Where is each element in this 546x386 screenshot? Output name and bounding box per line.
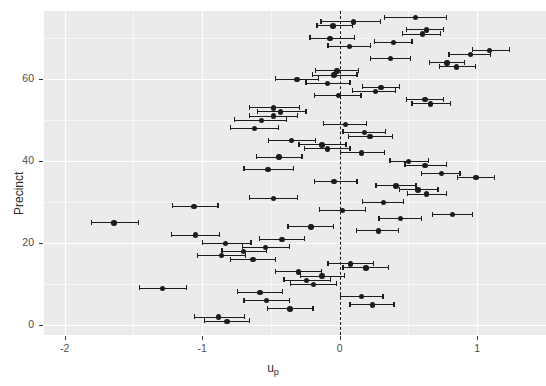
- data-point: [191, 204, 196, 209]
- y-tick-mark: [39, 243, 43, 244]
- error-bar-cap-high: [358, 68, 359, 73]
- data-point: [265, 167, 270, 172]
- data-point: [415, 187, 420, 192]
- data-point: [340, 208, 345, 213]
- data-point: [363, 265, 368, 270]
- data-point: [219, 253, 224, 258]
- error-bar-cap-low: [298, 142, 299, 147]
- data-point: [359, 150, 364, 155]
- error-bar-cap-high: [244, 314, 245, 319]
- data-point: [398, 216, 403, 221]
- error-bar-cap-low: [249, 105, 250, 110]
- y-tick-mark: [39, 79, 43, 80]
- error-bar-cap-high: [440, 31, 441, 36]
- error-bar-cap-low: [374, 39, 375, 44]
- x-axis-title-subscript: p: [274, 367, 279, 377]
- error-bar-cap-high: [446, 191, 447, 196]
- data-point: [454, 64, 459, 69]
- error-bar-cap-high: [373, 261, 374, 266]
- error-bar-cap-high: [446, 15, 447, 20]
- x-gridline-major: [65, 11, 66, 335]
- error-bar-cap-high: [411, 39, 412, 44]
- y-gridline-minor: [44, 202, 546, 203]
- error-bar-cap-high: [352, 23, 353, 28]
- error-bar-cap-low: [375, 183, 376, 188]
- error-bar-cap-high: [365, 207, 366, 212]
- error-bar-cap-low: [171, 232, 172, 237]
- error-bar-cap-high: [289, 298, 290, 303]
- data-point: [289, 138, 294, 143]
- error-bar-cap-high: [399, 84, 400, 89]
- data-point: [468, 52, 473, 57]
- error-bar-cap-high: [330, 277, 331, 282]
- error-bar-cap-high: [366, 121, 367, 126]
- error-bar-cap-low: [389, 158, 390, 163]
- error-bar-cap-high: [186, 285, 187, 290]
- error-bar-cap-low: [340, 294, 341, 299]
- error-bar-cap-high: [392, 134, 393, 139]
- y-tick-mark: [39, 325, 43, 326]
- data-point: [278, 109, 283, 114]
- error-bar-cap-low: [457, 175, 458, 180]
- data-point: [378, 85, 383, 90]
- error-bar-cap-low: [448, 52, 449, 57]
- error-bar-cap-low: [323, 121, 324, 126]
- error-bar-cap-low: [287, 224, 288, 229]
- data-point: [424, 191, 429, 196]
- error-bar-cap-low: [300, 273, 301, 278]
- error-bar-cap-high: [446, 162, 447, 167]
- error-bar-cap-low: [406, 97, 407, 102]
- error-bar-cap-high: [297, 113, 298, 118]
- error-bar-cap-low: [327, 261, 328, 266]
- error-bar-cap-low: [384, 15, 385, 20]
- data-point: [359, 294, 364, 299]
- error-bar-cap-high: [384, 150, 385, 155]
- y-tick-label: 60: [4, 72, 34, 84]
- data-point: [279, 237, 284, 242]
- error-bar-cap-low: [349, 302, 350, 307]
- data-point: [367, 134, 372, 139]
- error-bar-cap-high: [382, 294, 383, 299]
- zero-reference-line: [340, 11, 341, 335]
- error-bar-cap-high: [349, 80, 350, 85]
- error-bar-cap-low: [230, 125, 231, 130]
- data-point: [413, 15, 418, 20]
- error-bar-cap-high: [403, 199, 404, 204]
- error-bar-cap-low: [194, 314, 195, 319]
- data-point: [381, 200, 386, 205]
- chart-root: -2-1010204060 up Precinct: [0, 0, 546, 386]
- data-point: [420, 31, 425, 36]
- data-point: [428, 101, 433, 106]
- y-gridline-minor: [44, 38, 546, 39]
- x-gridline-minor: [133, 11, 134, 335]
- error-bar-cap-low: [342, 129, 343, 134]
- error-bar-cap-low: [399, 187, 400, 192]
- x-tick-mark: [340, 336, 341, 340]
- y-tick-mark: [39, 161, 43, 162]
- error-bar-cap-high: [245, 253, 246, 258]
- error-bar-cap-low: [407, 191, 408, 196]
- error-bar-cap-high: [443, 97, 444, 102]
- y-tick-label: 0: [4, 318, 34, 330]
- error-bar-cap-low: [429, 60, 430, 65]
- error-bar-cap-low: [314, 93, 315, 98]
- error-bar-cap-high: [388, 265, 389, 270]
- error-bar-cap-high: [336, 281, 337, 286]
- error-bar-cap-low: [234, 117, 235, 122]
- error-bar-cap-high: [509, 47, 510, 52]
- data-point: [252, 126, 257, 131]
- data-point: [287, 306, 292, 311]
- data-point: [308, 224, 313, 229]
- error-bar-cap-high: [356, 179, 357, 184]
- error-bar-cap-high: [301, 154, 302, 159]
- error-bar-cap-low: [309, 35, 310, 40]
- error-bar-cap-low: [340, 150, 341, 155]
- error-bar-cap-low: [249, 195, 250, 200]
- data-point: [325, 81, 330, 86]
- error-bar-cap-low: [315, 68, 316, 73]
- error-bar-cap-low: [230, 257, 231, 262]
- data-point: [311, 282, 316, 287]
- error-bar-cap-high: [217, 203, 218, 208]
- error-bar-cap-low: [290, 281, 291, 286]
- error-bar-cap-high: [443, 27, 444, 32]
